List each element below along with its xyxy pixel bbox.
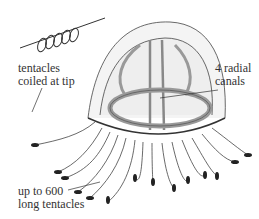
label-coiled-tentacles: tentacles coiled at tip xyxy=(18,62,75,88)
bell xyxy=(88,22,225,134)
label-line: coiled at tip xyxy=(18,75,75,88)
coiled-tentacle-drawing xyxy=(20,18,105,53)
label-radial-canals: 4 radial canals xyxy=(215,62,251,88)
jellyfish-diagram: tentacles coiled at tip 4 radial canals … xyxy=(0,0,259,219)
leader-coiled xyxy=(32,88,42,112)
label-line: canals xyxy=(215,75,251,88)
label-long-tentacles: up to 600 long tentacles xyxy=(18,185,84,211)
label-line: long tentacles xyxy=(18,198,84,211)
